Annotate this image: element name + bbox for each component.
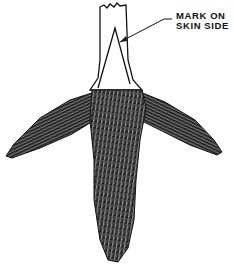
annotation-line-2: SKIN SIDE (176, 20, 229, 31)
left-fur-leg (6, 92, 98, 158)
annotation-label: MARK ON SKIN SIDE (176, 11, 229, 31)
pelt-illustration (0, 0, 234, 269)
pelt-diagram: MARK ON SKIN SIDE (0, 0, 234, 269)
tail-stalk (90, 3, 142, 90)
central-fur-body (90, 90, 146, 262)
right-fur-leg (136, 92, 222, 155)
